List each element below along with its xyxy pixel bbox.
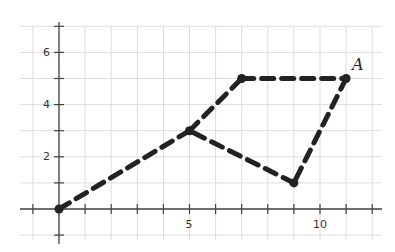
vertex-point xyxy=(185,126,194,135)
y-tick-label-2: 2 xyxy=(43,150,50,163)
grid-lines xyxy=(20,26,382,240)
vertex-points xyxy=(55,74,351,214)
y-tick-label-4: 4 xyxy=(43,98,50,111)
point-a xyxy=(342,74,351,83)
vertex-point xyxy=(55,205,64,214)
x-tick-label-10: 10 xyxy=(313,218,327,231)
y-tick-label-6: 6 xyxy=(43,46,50,59)
vertex-point xyxy=(289,178,298,187)
dashed-segment xyxy=(59,131,190,209)
x-tick-label-5: 5 xyxy=(186,218,193,231)
coordinate-plane: 5 10 2 4 6 A xyxy=(0,0,395,252)
axes xyxy=(20,22,382,244)
point-label-a: A xyxy=(350,55,364,74)
dashed-polygon-path xyxy=(59,79,346,210)
vertex-point xyxy=(237,74,246,83)
